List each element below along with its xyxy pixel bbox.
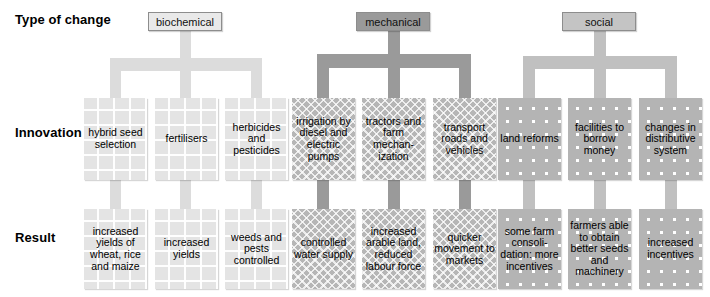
- innovation-cell-label: facilities to borrow money: [569, 122, 630, 157]
- innovation-cell-label: irrigation by diesel and electric pumps: [293, 116, 354, 162]
- row-label-result: Result: [15, 230, 55, 245]
- result-cell-3[interactable]: weeds and pests controlled: [225, 209, 288, 289]
- innovation-cell-1[interactable]: hybrid seed selection: [84, 98, 147, 180]
- innovation-cell-label: land reforms: [500, 133, 558, 145]
- result-cell-4[interactable]: controlled water supply: [292, 209, 355, 289]
- innovation-cell-label: hybrid seed selection: [85, 127, 146, 150]
- innovation-cell-label: changes in distributive system: [640, 122, 701, 157]
- innovation-cell-2[interactable]: fertilisers: [155, 98, 218, 180]
- result-cell-2[interactable]: increased yields: [155, 209, 218, 289]
- innovation-cell-4[interactable]: irrigation by diesel and electric pumps: [292, 98, 355, 180]
- innovation-cell-5[interactable]: tractors and farm mechan- ization: [362, 98, 425, 180]
- category-chip-mechanical[interactable]: mechanical: [356, 12, 430, 31]
- category-chip-label: biochemical: [156, 16, 214, 28]
- result-cell-7[interactable]: some farm consoli- dation: more incentiv…: [498, 209, 561, 289]
- innovation-cell-label: tractors and farm mechan- ization: [363, 116, 424, 162]
- category-chip-label: social: [585, 16, 613, 28]
- result-cell-8[interactable]: farmers able to obtain better seeds and …: [568, 209, 631, 289]
- category-chip-social[interactable]: social: [562, 12, 636, 31]
- innovation-cell-8[interactable]: facilities to borrow money: [568, 98, 631, 180]
- category-chip-biochemical[interactable]: biochemical: [148, 12, 222, 31]
- diagram-canvas: Type of change Innovation Result: [0, 0, 710, 297]
- category-chip-label: mechanical: [365, 16, 421, 28]
- result-cell-label: farmers able to obtain better seeds and …: [569, 220, 630, 278]
- result-cell-label: increased yields: [156, 237, 217, 260]
- innovation-cell-9[interactable]: changes in distributive system: [639, 98, 702, 180]
- row-label-innovation: Innovation: [15, 125, 82, 140]
- result-cell-label: controlled water supply: [293, 237, 354, 260]
- innovation-cell-7[interactable]: land reforms: [498, 98, 561, 180]
- result-cell-label: weeds and pests controlled: [226, 232, 287, 267]
- result-cell-label: increased incentives: [640, 237, 701, 260]
- result-cell-label: quicker movement to markets: [434, 232, 495, 267]
- innovation-cell-label: fertilisers: [165, 133, 207, 145]
- innovation-cell-label: transport roads and vehicles: [434, 122, 495, 157]
- innovation-cell-3[interactable]: herbicides and pesticides: [225, 98, 288, 180]
- innovation-cell-label: herbicides and pesticides: [226, 122, 287, 157]
- result-cell-9[interactable]: increased incentives: [639, 209, 702, 289]
- result-cell-6[interactable]: quicker movement to markets: [433, 209, 496, 289]
- innovation-cell-6[interactable]: transport roads and vehicles: [433, 98, 496, 180]
- result-cell-5[interactable]: increased arable land, reduced labour fo…: [362, 209, 425, 289]
- result-cell-label: increased yields of wheat, rice and maiz…: [85, 226, 146, 272]
- result-cell-label: increased arable land, reduced labour fo…: [363, 226, 424, 272]
- result-cell-1[interactable]: increased yields of wheat, rice and maiz…: [84, 209, 147, 289]
- result-cell-label: some farm consoli- dation: more incentiv…: [499, 226, 560, 272]
- row-label-type-of-change: Type of change: [15, 12, 111, 27]
